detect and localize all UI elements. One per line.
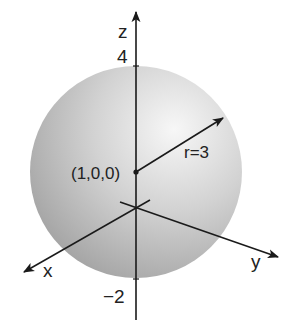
center-point [133,169,138,174]
z-tick-label-neg2: −2 [103,286,125,307]
center-label: (1,0,0) [71,164,120,183]
radius-label: r=3 [184,143,209,162]
z-axis-label: z [118,21,128,42]
y-axis-label: y [251,251,261,272]
sphere-diagram: z 4 (1,0,0) r=3 x y −2 [0,0,286,327]
z-tick-label-4: 4 [117,46,128,67]
x-axis-label: x [43,260,53,281]
